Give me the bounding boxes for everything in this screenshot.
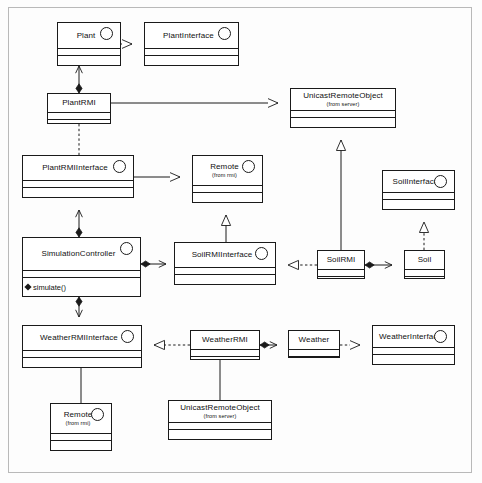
attributes-compartment (383, 192, 454, 199)
class-name: PlantRMIInterface (42, 163, 108, 173)
uml-diagram-canvas: Plant PlantInterface PlantRMI UnicastRem… (0, 0, 482, 483)
interface-circle-icon (218, 27, 231, 40)
visibility-marker-icon (24, 283, 31, 290)
attributes-compartment (291, 110, 395, 117)
attributes-compartment (23, 350, 141, 357)
operations-compartment (51, 440, 111, 450)
class-name-area: Remote (from rmi) (51, 404, 111, 433)
class-package-label: (from rmi) (66, 420, 91, 427)
attributes-compartment (23, 270, 140, 277)
interface-circle-icon (91, 408, 104, 421)
class-name-area: SimulationController (23, 238, 140, 270)
class-name-area: SoilRMI (318, 251, 364, 269)
operation-label: simulate() (33, 283, 66, 292)
class-box-remote-middle[interactable]: Remote (from rmi) (192, 155, 263, 203)
class-name: WeatherInterface (379, 332, 442, 342)
class-package-label: (from server) (204, 413, 237, 420)
class-name-area: Soil (405, 251, 444, 269)
class-name-area: PlantInterface (145, 23, 238, 48)
class-name: Weather (299, 335, 330, 345)
class-box-plant[interactable]: Plant (57, 22, 121, 66)
class-box-remote-bottom[interactable]: Remote (from rmi) (50, 403, 112, 451)
attributes-compartment (191, 349, 259, 356)
class-box-weatherrmi[interactable]: WeatherRMI (190, 330, 260, 360)
interface-circle-icon (434, 175, 447, 188)
operations-compartment (23, 187, 133, 197)
class-name-area: Remote (from rmi) (193, 156, 262, 185)
class-name: PlantInterface (163, 31, 214, 41)
attributes-compartment (169, 422, 271, 429)
attributes-compartment (318, 269, 364, 276)
class-name-area: SoilInterface (383, 171, 454, 192)
class-name-area: PlantRMIInterface (23, 156, 133, 180)
operations-compartment (48, 119, 110, 129)
operations-compartment (318, 276, 364, 286)
class-name: SoilRMI (327, 255, 356, 265)
operations-compartment (383, 199, 454, 209)
class-name-area: Weather (289, 331, 339, 349)
class-name: WeatherRMIInterface (40, 333, 118, 343)
operations-compartment (193, 192, 262, 202)
operations-compartment (191, 356, 259, 366)
operations-compartment (373, 354, 454, 364)
class-box-plantinterface[interactable]: PlantInterface (144, 22, 239, 66)
class-name: UnicastRemoteObject (180, 403, 260, 413)
class-name-area: PlantRMI (48, 94, 110, 112)
class-name: Plant (77, 31, 96, 41)
class-box-weatherinterface[interactable]: WeatherInterface (372, 325, 455, 365)
class-name-area: UnicastRemoteObject (from server) (291, 89, 395, 110)
class-package-label: (from server) (327, 101, 360, 108)
class-name: Remote (210, 162, 239, 172)
interface-circle-icon (100, 27, 113, 40)
class-box-soil[interactable]: Soil (404, 250, 445, 279)
class-name-area: UnicastRemoteObject (from server) (169, 401, 271, 422)
operations-compartment (145, 55, 238, 65)
class-box-weather[interactable]: Weather (288, 330, 340, 358)
class-name: WeatherRMI (202, 335, 248, 345)
class-name-area: WeatherRMI (191, 331, 259, 349)
class-box-weatherrmiinterface[interactable]: WeatherRMIInterface (22, 325, 142, 368)
class-name-area: WeatherRMIInterface (23, 326, 141, 350)
operations-compartment (58, 55, 120, 65)
class-name-area: Plant (58, 23, 120, 48)
class-name: Soil (418, 255, 432, 265)
attributes-compartment (373, 347, 454, 354)
class-box-unicastremoteobject-bottom[interactable]: UnicastRemoteObject (from server) (168, 400, 272, 440)
operations-compartment (175, 274, 275, 284)
interface-circle-icon (121, 330, 134, 343)
class-name-area: WeatherInterface (373, 326, 454, 347)
class-package-label: (from rmi) (212, 172, 237, 179)
class-name-area: SoilRMIInterface (175, 243, 275, 267)
operations-compartment (405, 276, 444, 286)
class-box-simulationcontroller[interactable]: SimulationController simulate() (22, 237, 141, 297)
operations-compartment (23, 357, 141, 367)
interface-circle-icon (120, 242, 133, 255)
attributes-compartment (193, 185, 262, 192)
class-name: SimulationController (41, 249, 115, 259)
operations-compartment: simulate() (23, 277, 140, 296)
attributes-compartment (23, 180, 133, 187)
attributes-compartment (289, 349, 339, 356)
attributes-compartment (58, 48, 120, 55)
attributes-compartment (175, 267, 275, 274)
class-name: SoilInterface (393, 177, 439, 187)
class-box-plantrmi[interactable]: PlantRMI (47, 93, 111, 124)
class-name: SoilRMIInterface (192, 250, 253, 260)
attributes-compartment (51, 433, 111, 440)
class-box-soilinterface[interactable]: SoilInterface (382, 170, 455, 210)
class-box-plantrmiinterface[interactable]: PlantRMIInterface (22, 155, 134, 198)
class-box-unicastremoteobject-top[interactable]: UnicastRemoteObject (from server) (290, 88, 396, 128)
class-box-soilrmiinterface[interactable]: SoilRMIInterface (174, 242, 276, 285)
operations-compartment (291, 117, 395, 127)
interface-circle-icon (113, 160, 126, 173)
operations-compartment (169, 429, 271, 439)
operations-compartment (289, 356, 339, 366)
class-name: UnicastRemoteObject (303, 91, 383, 101)
interface-circle-icon (434, 330, 447, 343)
class-box-soilrmi[interactable]: SoilRMI (317, 250, 365, 279)
operation-row: simulate() (25, 283, 66, 292)
attributes-compartment (405, 269, 444, 276)
attributes-compartment (48, 112, 110, 119)
class-name: Remote (64, 410, 93, 420)
interface-circle-icon (255, 247, 268, 260)
